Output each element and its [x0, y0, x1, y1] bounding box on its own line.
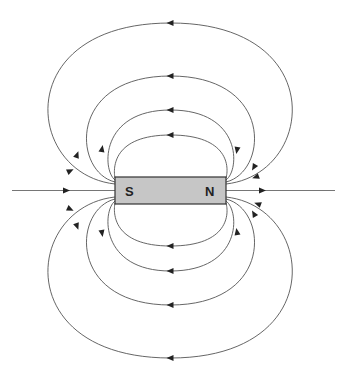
side-arrow-10	[73, 222, 81, 231]
arrow-lower-4	[167, 355, 174, 361]
side-arrow-11	[253, 200, 262, 208]
arrow-lower-3	[167, 302, 174, 308]
arrow-upper-1	[167, 132, 174, 138]
field-line-lower-4	[48, 197, 292, 358]
south-pole-label: S	[125, 184, 134, 199]
side-arrow-7	[233, 228, 240, 236]
side-arrow-8	[99, 230, 106, 238]
side-arrow-4	[73, 150, 81, 159]
field-line-lower-2	[108, 201, 234, 271]
arrow-upper-3	[167, 73, 174, 79]
side-arrow-3	[249, 163, 258, 172]
field-line-lower-3	[86, 199, 254, 305]
arrow-axial-left	[63, 188, 70, 194]
field-line-upper-4	[48, 23, 292, 184]
arrow-lower-2	[167, 268, 174, 274]
field-line-lower-1	[114, 203, 227, 246]
arrow-upper-4	[167, 20, 174, 26]
magnetic-field-diagram: S N	[0, 0, 343, 377]
field-line-upper-1	[114, 135, 227, 178]
arrow-lower-1	[167, 243, 174, 249]
side-arrow-6	[66, 167, 75, 175]
side-arrow-12	[66, 205, 75, 213]
arrow-axial-right	[259, 188, 266, 194]
field-line-upper-2	[108, 110, 234, 180]
north-pole-label: N	[205, 184, 214, 199]
field-line-upper-3	[86, 76, 254, 182]
arrow-upper-2	[167, 107, 174, 113]
side-arrow-9	[249, 209, 258, 218]
side-arrow-1	[233, 147, 240, 155]
side-arrow-2	[99, 145, 106, 153]
